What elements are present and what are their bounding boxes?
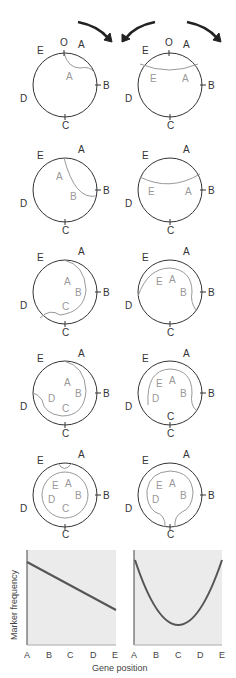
svg-text:B: B — [180, 490, 187, 501]
svg-text:A: A — [78, 246, 85, 257]
svg-text:A: A — [66, 71, 73, 82]
svg-text:D: D — [152, 494, 159, 505]
svg-text:E: E — [150, 73, 157, 84]
svg-text:D: D — [125, 401, 132, 412]
svg-text:A: A — [169, 478, 176, 489]
svg-text:E: E — [37, 252, 44, 263]
svg-text:B: B — [103, 80, 110, 91]
svg-text:D: D — [125, 300, 132, 311]
svg-text:A: A — [183, 144, 190, 155]
svg-text:C: C — [167, 428, 174, 439]
svg-text:C: C — [62, 120, 69, 131]
svg-text:A: A — [131, 650, 137, 660]
svg-text:E: E — [142, 150, 149, 161]
svg-text:A: A — [182, 73, 189, 84]
svg-text:D: D — [48, 393, 55, 404]
svg-text:E: E — [142, 353, 149, 364]
svg-text:C: C — [167, 411, 174, 422]
svg-text:D: D — [125, 503, 132, 514]
svg-text:C: C — [62, 503, 69, 514]
svg-text:A: A — [185, 186, 192, 197]
svg-text:E: E — [37, 150, 44, 161]
svg-text:C: C — [167, 120, 174, 131]
svg-text:B: B — [103, 388, 110, 399]
svg-text:D: D — [48, 494, 55, 505]
svg-text:A: A — [56, 171, 63, 182]
svg-text:D: D — [125, 198, 132, 209]
svg-text:A: A — [24, 650, 30, 660]
svg-text:E: E — [156, 378, 163, 389]
svg-text:B: B — [46, 650, 52, 660]
svg-text:D: D — [197, 650, 204, 660]
chart-right — [134, 550, 222, 645]
y-axis-label: Marker frequency — [9, 569, 19, 640]
svg-text:C: C — [62, 301, 69, 312]
svg-text:B: B — [208, 185, 215, 196]
svg-text:C: C — [167, 225, 174, 236]
svg-text:D: D — [125, 93, 132, 104]
svg-text:A: A — [183, 246, 190, 257]
svg-text:B: B — [153, 650, 159, 660]
x-axis-label: Gene position — [92, 663, 148, 673]
svg-text:C: C — [167, 327, 174, 338]
svg-text:E: E — [142, 252, 149, 263]
svg-text:D: D — [20, 198, 27, 209]
svg-text:E: E — [112, 650, 118, 660]
svg-text:B: B — [75, 388, 82, 399]
svg-text:B: B — [180, 388, 187, 399]
x-ticks: ABCDE ABCDE — [24, 650, 225, 660]
arrow-icon — [78, 22, 221, 42]
svg-text:A: A — [78, 144, 85, 155]
svg-text:A: A — [78, 39, 85, 50]
svg-text:B: B — [208, 490, 215, 501]
svg-text:D: D — [20, 300, 27, 311]
svg-text:D: D — [152, 393, 159, 404]
svg-text:B: B — [208, 388, 215, 399]
svg-text:E: E — [156, 276, 163, 287]
svg-text:C: C — [167, 529, 174, 540]
svg-text:D: D — [90, 650, 97, 660]
svg-text:A: A — [183, 348, 190, 359]
svg-text:B: B — [70, 191, 77, 202]
svg-text:E: E — [142, 455, 149, 466]
svg-text:C: C — [62, 327, 69, 338]
svg-text:C: C — [62, 225, 69, 236]
svg-text:A: A — [64, 276, 71, 287]
svg-text:E: E — [37, 45, 44, 56]
svg-text:B: B — [208, 80, 215, 91]
svg-text:A: A — [183, 39, 190, 50]
svg-text:A: A — [65, 478, 72, 489]
svg-text:E: E — [52, 480, 59, 491]
svg-text:C: C — [175, 650, 182, 660]
svg-text:B: B — [103, 185, 110, 196]
svg-text:E: E — [37, 455, 44, 466]
svg-text:B: B — [103, 490, 110, 501]
svg-text:C: C — [62, 403, 69, 414]
svg-text:B: B — [180, 287, 187, 298]
svg-text:B: B — [75, 287, 82, 298]
svg-text:E: E — [156, 480, 163, 491]
svg-text:A: A — [78, 348, 85, 359]
svg-text:D: D — [20, 401, 27, 412]
svg-text:O: O — [165, 37, 173, 48]
svg-text:D: D — [20, 93, 27, 104]
svg-text:C: C — [67, 650, 74, 660]
svg-text:C: C — [62, 428, 69, 439]
svg-text:A: A — [183, 449, 190, 460]
chart-left — [27, 550, 116, 645]
svg-text:A: A — [64, 377, 71, 388]
svg-text:E: E — [219, 650, 225, 660]
svg-text:B: B — [103, 287, 110, 298]
svg-text:A: A — [169, 375, 176, 386]
svg-text:B: B — [75, 490, 82, 501]
svg-text:B: B — [208, 287, 215, 298]
conjugation-diagram: OA EB DC A OA EB DC EA AE BD C AB AE BD … — [0, 0, 236, 678]
svg-text:E: E — [37, 353, 44, 364]
svg-text:O: O — [60, 37, 68, 48]
svg-text:C: C — [62, 529, 69, 540]
svg-text:A: A — [169, 274, 176, 285]
svg-text:E: E — [142, 45, 149, 56]
svg-text:D: D — [20, 503, 27, 514]
svg-text:E: E — [148, 186, 155, 197]
svg-text:A: A — [78, 449, 85, 460]
